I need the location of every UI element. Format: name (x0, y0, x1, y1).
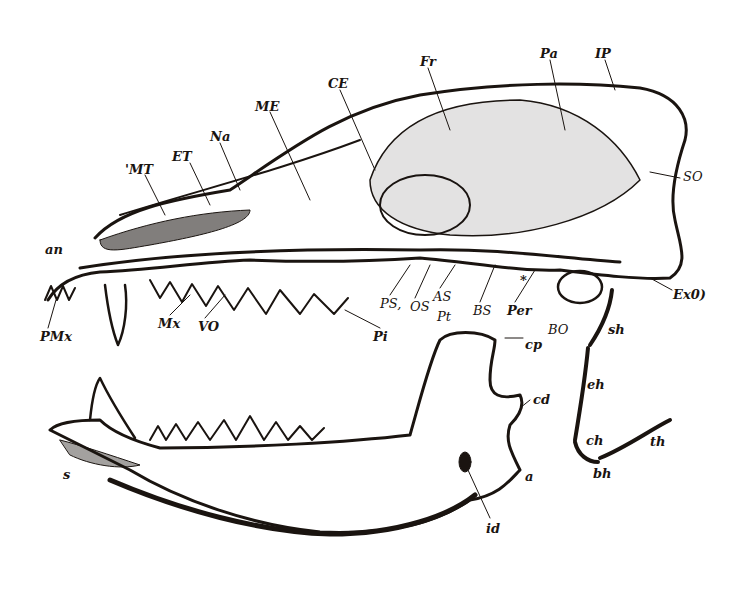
label-asterisk: * (520, 274, 527, 287)
label-anterior-nares: an (45, 243, 63, 256)
tympanic-bulla (558, 271, 602, 303)
label-frontal: Fr (420, 55, 436, 68)
label-angle: a (525, 470, 533, 483)
label-periotic: Per (507, 304, 532, 317)
label-coronoid-process: cp (525, 338, 542, 351)
label-supraoccipital: SO (683, 170, 703, 183)
label-exoccipital: Ex0) (673, 288, 706, 301)
skull-figure: Fr Pa IP CE ME Na ET 'MT SO an Ex0) * PS… (0, 0, 755, 592)
palate-line (80, 250, 620, 268)
label-ceratohyal: ch (586, 434, 603, 447)
label-epihyal: eh (587, 378, 605, 391)
nasal-line (120, 140, 360, 215)
upper-teeth (150, 280, 348, 314)
label-premaxilla: PMx (40, 330, 72, 343)
label-CE: CE (328, 77, 348, 90)
label-nasal: Na (210, 130, 230, 143)
label-inferior-dental-foramen: id (486, 522, 500, 535)
label-orbitosphenoid: OS (410, 300, 430, 313)
label-ME: ME (255, 100, 279, 113)
label-condyle: cd (533, 393, 550, 406)
label-maxilla: Mx (158, 317, 180, 330)
label-MT: 'MT (125, 163, 153, 176)
upper-canine (105, 285, 126, 345)
label-presphenoid: PS, (380, 297, 401, 310)
mandibular-foramen (459, 452, 471, 472)
label-symphysis: s (63, 468, 70, 481)
label-thyrohyal: th (650, 435, 665, 448)
label-basihyal: bh (593, 467, 612, 480)
symphysis-texture (60, 440, 140, 467)
hyoid-epihyoid (575, 348, 588, 440)
label-interparietal: IP (595, 47, 611, 60)
snout-shading (100, 210, 250, 250)
mandible-outline (50, 333, 522, 533)
label-basioccipital: BO (548, 323, 568, 336)
label-alisphenoid: AS (433, 290, 451, 303)
label-palatine: Pi (373, 330, 388, 343)
lower-teeth (150, 416, 324, 440)
skull-drawing (0, 0, 755, 592)
label-stylohyal: sh (608, 323, 625, 336)
label-pterygoid: Pt (437, 310, 451, 323)
braincase-shading (370, 100, 640, 236)
label-ET: ET (172, 150, 192, 163)
label-vomer: VO (198, 320, 219, 333)
label-basisphenoid: BS (473, 304, 491, 317)
label-parietal: Pa (540, 47, 558, 60)
